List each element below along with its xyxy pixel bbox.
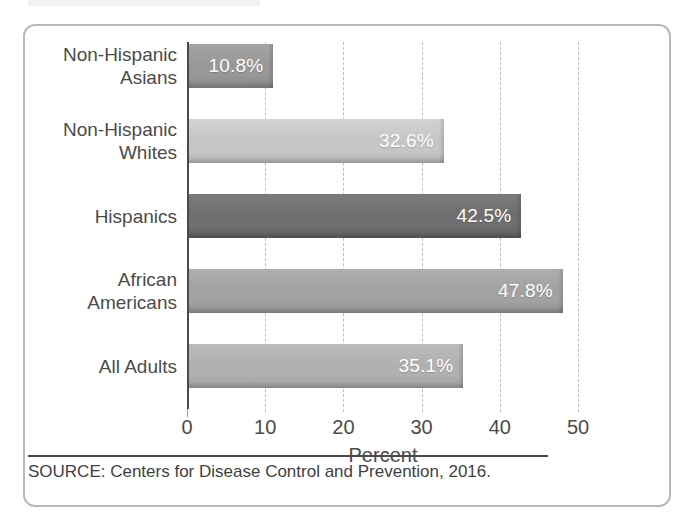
- bar-value-label: 35.1%: [399, 355, 454, 377]
- bar-bottom-shading: [189, 157, 444, 163]
- bar-chart-plot-area: 10.8%32.6%42.5%47.8%35.1% Non-Hispanic A…: [23, 24, 671, 507]
- bar-right-shading: [439, 119, 444, 163]
- x-tick-label-10: 10: [245, 416, 285, 439]
- bar-right-shading: [516, 194, 521, 238]
- x-tick-label-40: 40: [480, 416, 520, 439]
- source-note: SOURCE: Centers for Disease Control and …: [28, 462, 491, 482]
- source-divider: [28, 455, 548, 457]
- category-label: All Adults: [99, 355, 177, 378]
- bar-bottom-shading: [189, 382, 463, 388]
- gridline-50: [578, 42, 579, 412]
- bar-row: 35.1%: [189, 344, 463, 388]
- bar: 42.5%: [189, 194, 521, 238]
- bar-bottom-shading: [189, 82, 273, 88]
- bar-right-shading: [458, 344, 463, 388]
- bar-row: 42.5%: [189, 194, 521, 238]
- category-label: African Americans: [87, 268, 177, 314]
- bar: 35.1%: [189, 344, 463, 388]
- bar: 10.8%: [189, 44, 273, 88]
- bar: 32.6%: [189, 119, 444, 163]
- x-tick-label-50: 50: [558, 416, 598, 439]
- bar-bottom-shading: [189, 232, 521, 238]
- category-label: Non-Hispanic Whites: [63, 118, 177, 164]
- bar-right-shading: [558, 269, 563, 313]
- bar-right-shading: [268, 44, 273, 88]
- x-tick-label-30: 30: [402, 416, 442, 439]
- category-label: Hispanics: [95, 205, 177, 228]
- x-tick-label-20: 20: [323, 416, 363, 439]
- bar-row: 10.8%: [189, 44, 273, 88]
- bar-value-label: 47.8%: [498, 280, 553, 302]
- x-tick-label-0: 0: [167, 416, 207, 439]
- bar-bottom-shading: [189, 307, 563, 313]
- bar-value-label: 32.6%: [379, 130, 434, 152]
- bar-value-label: 42.5%: [456, 205, 511, 227]
- bar: 47.8%: [189, 269, 563, 313]
- bar-row: 47.8%: [189, 269, 563, 313]
- scan-artifact-strip: [28, 0, 260, 6]
- bar-row: 32.6%: [189, 119, 444, 163]
- bar-value-label: 10.8%: [209, 55, 264, 77]
- category-label: Non-Hispanic Asians: [63, 43, 177, 89]
